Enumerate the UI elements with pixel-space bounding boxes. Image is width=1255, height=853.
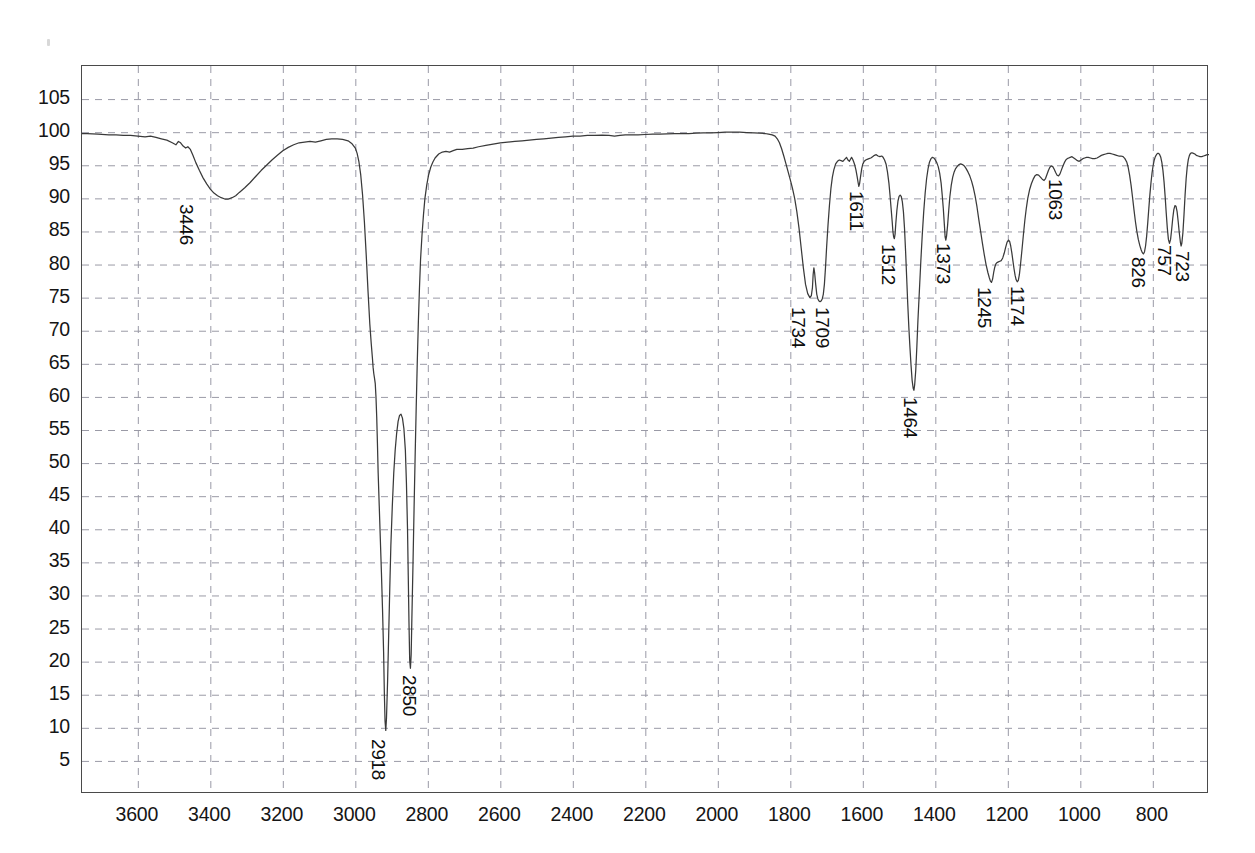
peak-label-2850: 2850 <box>400 675 419 716</box>
spectrum-trace <box>82 132 1209 730</box>
peak-label-723: 723 <box>1173 251 1192 282</box>
peak-label-1464: 1464 <box>901 397 920 438</box>
y-tick-label-105: 105 <box>8 88 70 108</box>
peak-label-1245: 1245 <box>975 287 994 328</box>
x-tick-label-3000: 3000 <box>333 805 376 825</box>
y-tick-label-25: 25 <box>8 618 70 638</box>
y-tick-label-100: 100 <box>8 121 70 141</box>
y-tick-label-80: 80 <box>8 254 70 274</box>
x-tick-label-2600: 2600 <box>478 805 521 825</box>
peak-label-1063: 1063 <box>1046 179 1065 220</box>
peak-label-1734: 1734 <box>789 307 808 348</box>
peak-label-1373: 1373 <box>934 243 953 284</box>
y-tick-label-40: 40 <box>8 518 70 538</box>
y-tick-label-5: 5 <box>8 750 70 770</box>
x-tick-label-1600: 1600 <box>841 805 884 825</box>
peak-label-1709: 1709 <box>813 307 832 348</box>
y-tick-label-55: 55 <box>8 419 70 439</box>
x-tick-label-2400: 2400 <box>551 805 594 825</box>
y-tick-label-85: 85 <box>8 220 70 240</box>
transmittance-curve <box>82 66 1209 794</box>
y-tick-label-90: 90 <box>8 187 70 207</box>
peak-label-3446: 3446 <box>177 204 196 245</box>
y-tick-label-30: 30 <box>8 584 70 604</box>
peak-label-2918: 2918 <box>369 739 388 780</box>
ir-spectrum-page: 5101520253035404550556065707580859095100… <box>0 0 1255 853</box>
scan-artifact-speck <box>47 39 50 46</box>
peak-label-1512: 1512 <box>879 244 898 285</box>
peak-label-826: 826 <box>1129 257 1148 288</box>
plot-area <box>81 65 1208 793</box>
y-tick-label-45: 45 <box>8 485 70 505</box>
x-tick-label-1000: 1000 <box>1058 805 1101 825</box>
x-tick-label-1200: 1200 <box>986 805 1029 825</box>
y-tick-label-70: 70 <box>8 320 70 340</box>
peak-label-1611: 1611 <box>847 191 866 231</box>
y-tick-label-95: 95 <box>8 154 70 174</box>
x-tick-label-3200: 3200 <box>261 805 304 825</box>
x-tick-label-1400: 1400 <box>913 805 956 825</box>
y-tick-label-15: 15 <box>8 684 70 704</box>
x-tick-label-3600: 3600 <box>116 805 159 825</box>
y-tick-label-50: 50 <box>8 452 70 472</box>
y-tick-label-10: 10 <box>8 717 70 737</box>
y-tick-label-65: 65 <box>8 353 70 373</box>
y-tick-label-35: 35 <box>8 551 70 571</box>
x-tick-label-3400: 3400 <box>188 805 231 825</box>
x-tick-label-2000: 2000 <box>696 805 739 825</box>
x-tick-label-1800: 1800 <box>768 805 811 825</box>
y-tick-label-60: 60 <box>8 386 70 406</box>
y-tick-label-20: 20 <box>8 651 70 671</box>
y-tick-label-75: 75 <box>8 287 70 307</box>
x-tick-label-2800: 2800 <box>406 805 449 825</box>
peak-label-1174: 1174 <box>1008 286 1027 326</box>
x-tick-label-2200: 2200 <box>623 805 666 825</box>
x-tick-label-800: 800 <box>1136 805 1168 825</box>
